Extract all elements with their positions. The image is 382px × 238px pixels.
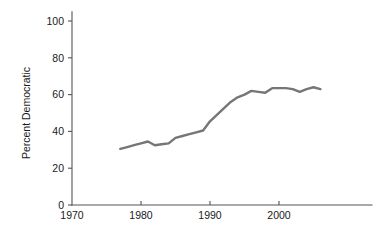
y-tick-label: 80 [52, 52, 64, 64]
y-axis-ticks [68, 21, 72, 205]
data-line-percent-democratic [120, 87, 320, 149]
y-tick-label: 20 [52, 162, 64, 174]
x-tick-label: 1970 [60, 209, 84, 221]
y-tick-label: 60 [52, 88, 64, 100]
x-tick-label: 2000 [267, 209, 291, 221]
chart-figure: 020406080100 1970198019902000 Percent De… [0, 0, 382, 238]
y-axis-title: Percent Democratic [20, 67, 32, 159]
x-axis-ticks [141, 201, 279, 205]
y-tick-label: 100 [46, 15, 64, 27]
line-chart: 020406080100 1970198019902000 Percent De… [0, 0, 382, 238]
x-tick-label: 1980 [129, 209, 153, 221]
y-axis-tick-labels: 020406080100 [46, 15, 64, 211]
x-axis-tick-labels: 1970198019902000 [60, 209, 291, 221]
y-tick-label: 40 [52, 125, 64, 137]
x-tick-label: 1990 [198, 209, 222, 221]
series-lines [120, 87, 320, 149]
